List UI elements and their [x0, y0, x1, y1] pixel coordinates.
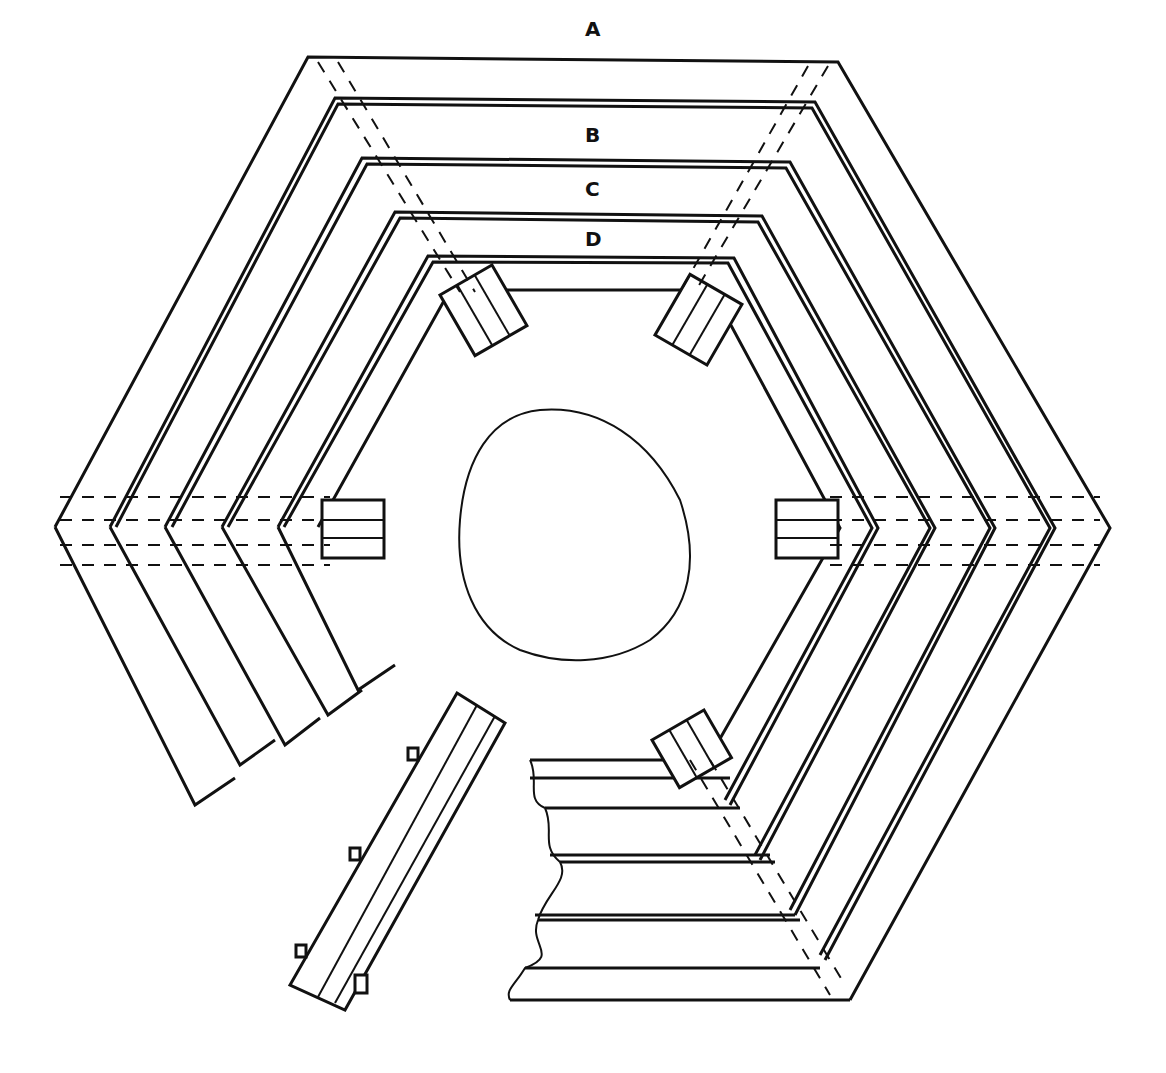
screw-icon	[296, 945, 306, 957]
loose-slat	[290, 693, 505, 1010]
label-c: C	[585, 177, 600, 201]
left-broken-slats	[55, 527, 395, 805]
bench-diagram: A B C D	[0, 0, 1166, 1073]
bottom-broken-slats	[509, 760, 850, 1000]
label-b: B	[585, 123, 600, 147]
tree-trunk	[459, 410, 690, 661]
label-d: D	[585, 227, 602, 251]
label-a: A	[585, 17, 601, 41]
ring-b	[116, 104, 1050, 955]
bracket-icon	[355, 975, 367, 993]
support-blocks	[322, 265, 838, 788]
outer-ring-a	[55, 57, 1110, 1000]
screw-icon	[350, 848, 360, 860]
screw-icon	[408, 748, 418, 760]
